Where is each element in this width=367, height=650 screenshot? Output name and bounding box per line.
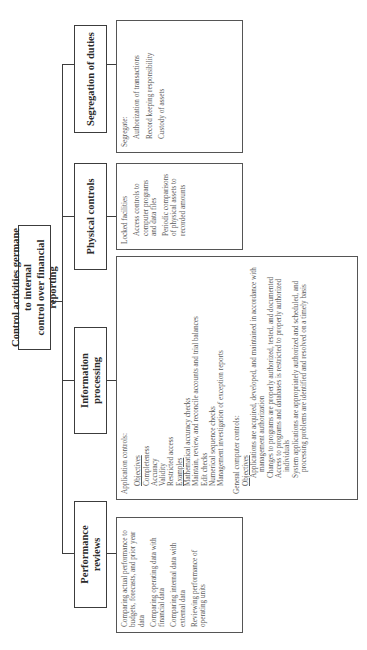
- detail-connector-information: [107, 380, 116, 381]
- detail-connector-physical: [107, 216, 116, 217]
- performance-item: Comparing operating data with financial …: [150, 523, 167, 627]
- application-objective: Validity: [159, 262, 167, 486]
- segregation-item: Custody of assets: [158, 26, 166, 147]
- segregation-item: Record keeping responsibility: [146, 26, 154, 147]
- segregation-title: Segregation of duties: [85, 32, 97, 126]
- physical-item: Access controls to computer programs and…: [133, 169, 158, 244]
- branch-connector-physical: [62, 216, 74, 217]
- performance-title-line1: Performance: [79, 525, 91, 583]
- physical-controls-node: Physical controls: [74, 163, 107, 270]
- branch-connector-segregation: [62, 64, 74, 65]
- general-objectives-label: Objectives: [242, 262, 250, 486]
- detail-connector-performance: [107, 553, 116, 554]
- performance-reviews-details: Comparing actual performance to budgets,…: [116, 517, 243, 633]
- general-objective: Changes to programs are properly authori…: [267, 262, 275, 486]
- segregation-of-duties-details: Segregate: Authorization of transactions…: [116, 20, 243, 153]
- application-example: Mathematical accuracy checks: [184, 262, 192, 486]
- root-title-line1: Control activities germane to internal: [10, 226, 35, 349]
- application-controls-label: Application controls:: [121, 262, 129, 494]
- diagram-canvas: Control activities germane to internal c…: [0, 0, 367, 650]
- physical-controls-details: Locked facilities Access controls to com…: [116, 163, 243, 250]
- performance-title-line2: reviews: [91, 525, 103, 583]
- physical-item: Locked facilities: [121, 169, 129, 244]
- physical-title: Physical controls: [85, 179, 97, 255]
- segregation-intro: Segregate:: [121, 26, 129, 147]
- physical-item: Periodic comparisons of physical assets …: [162, 169, 187, 244]
- application-objectives-label: Objectives: [134, 262, 142, 486]
- application-examples-label: Examples: [176, 262, 184, 486]
- detail-connector-segregation: [107, 64, 116, 65]
- segregation-item: Authorization of transactions: [133, 26, 141, 147]
- trunk-connector: [62, 64, 63, 554]
- performance-item: Comparing internal data with external da…: [170, 523, 187, 627]
- application-example: Edit checks: [201, 262, 209, 486]
- application-example: Management investigation of exception re…: [217, 262, 225, 486]
- segregation-of-duties-node: Segregation of duties: [74, 25, 107, 133]
- general-objective: System applications are appropriately au…: [292, 262, 309, 486]
- information-title-line2: processing: [91, 353, 103, 408]
- information-processing-node: Information processing: [74, 327, 107, 434]
- branch-connector-information: [62, 380, 74, 381]
- general-controls-label: General computer controls:: [233, 262, 241, 494]
- application-objective: Restricted access: [167, 262, 175, 486]
- information-processing-details: Application controls: Objectives Complet…: [116, 256, 358, 500]
- root-title-line2: control over financial reporting: [35, 226, 60, 349]
- application-example: Numerical sequence checks: [209, 262, 217, 486]
- performance-item: Reviewing performance of operating units: [191, 523, 208, 627]
- application-example: Maintain, review, and reconcile accounts…: [192, 262, 200, 486]
- performance-item: Comparing actual performance to budgets,…: [121, 523, 146, 627]
- application-objective: Completeness: [143, 262, 151, 486]
- information-title-line1: Information: [79, 353, 91, 408]
- general-objective: Access to programs and databases is rest…: [275, 262, 292, 486]
- general-objective: Applications are acquired, developed, an…: [250, 262, 267, 486]
- application-objective: Accuracy: [151, 262, 159, 486]
- root-node: Control activities germane to internal c…: [18, 225, 51, 350]
- branch-connector-performance: [62, 553, 74, 554]
- performance-reviews-node: Performance reviews: [74, 501, 107, 608]
- root-stem-connector: [51, 301, 62, 302]
